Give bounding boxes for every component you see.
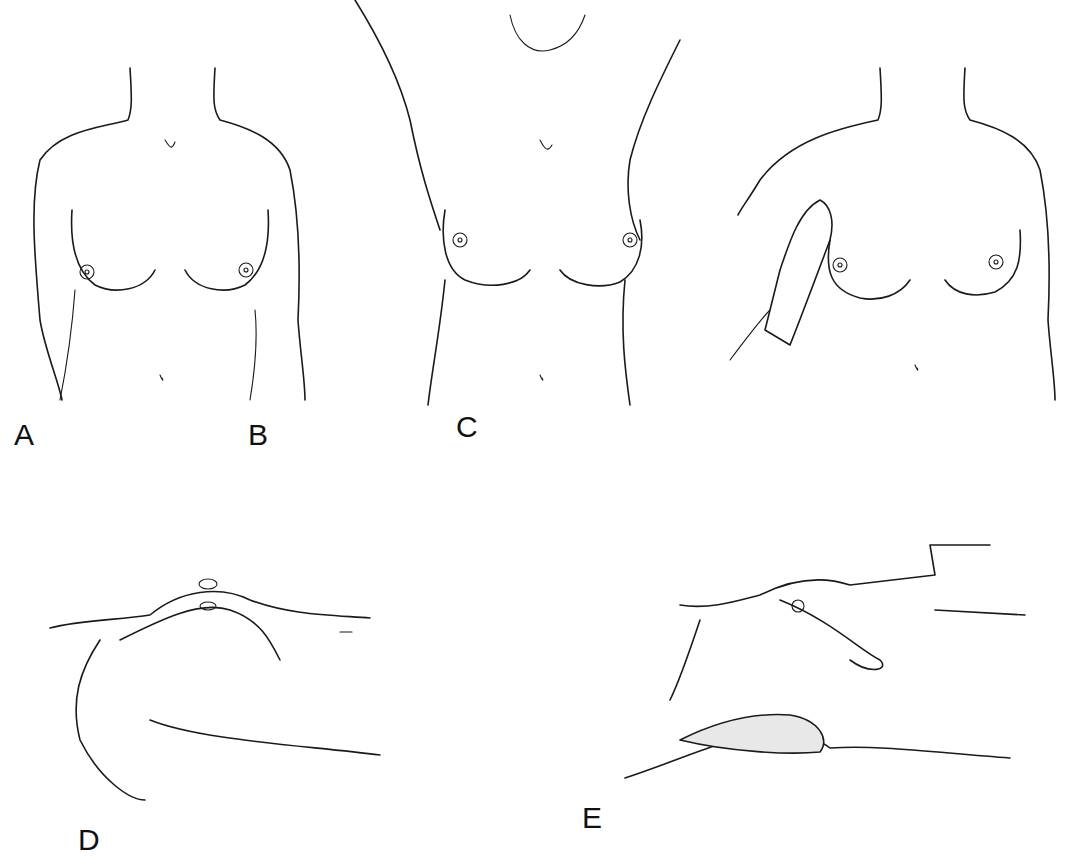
panel-label-c: C xyxy=(456,412,478,442)
panel-label-d: D xyxy=(78,825,100,855)
panel-label-a: A xyxy=(14,420,34,450)
panel-e-drawing xyxy=(625,545,1025,778)
figure-drawing xyxy=(0,0,1085,867)
panel-a-drawing xyxy=(34,68,305,400)
panel-d-drawing xyxy=(50,579,380,800)
panel-c-drawing xyxy=(730,68,1055,400)
panel-label-e: E xyxy=(582,803,602,833)
panel-b-drawing xyxy=(355,0,680,405)
panel-label-b: B xyxy=(248,420,268,450)
